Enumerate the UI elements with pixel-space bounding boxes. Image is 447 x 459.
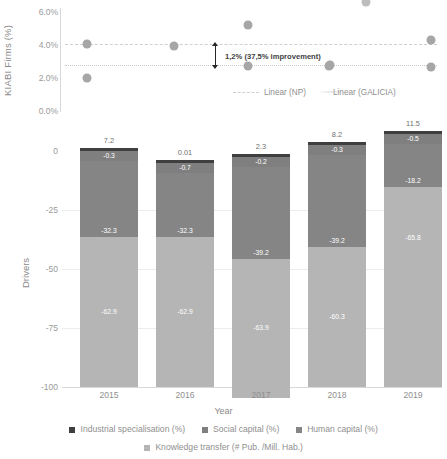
legend-swatch-social [202,427,208,433]
bar-top-label-2016: 0.01 [156,148,214,157]
chart-figure: KIABI Firms (%) 6.0% 4.0% 2.0% 0.0% [0,0,447,459]
legend-label-np: Linear (NP) [264,88,306,97]
bar-ytick-100: -100 [41,383,58,392]
scatter-point-np-2019 [427,36,436,45]
bar-segment-human-2017: -39.2 [232,167,290,259]
bar-segment-knowledge-2019: -65.8 [384,187,442,387]
bar-2018[interactable]: -0.3 -39.2 -60.3 [308,142,366,387]
bar-label-knowledge-2015: -62.9 [101,309,117,316]
legend-item-social[interactable]: Social capital (%) [202,424,280,434]
bar-ytick-0: 0 [53,147,58,156]
scatter-point-np-2015 [83,40,92,49]
scatter-point-np-2017 [244,21,253,30]
bar-segment-knowledge-2016: -62.9 [156,237,214,387]
bar-label-human-2019: -18.2 [405,178,421,185]
bar-2017[interactable]: -0.2 -39.2 -63.9 [232,154,290,398]
bar-2015[interactable]: -0.3 -32.3 -62.9 [80,148,138,387]
bar-top-label-2017: 2.3 [232,142,290,151]
scatter-point-clipped-top [362,0,371,7]
bar-2019[interactable]: -0.5 -18.2 -65.8 [384,131,442,387]
scatter-ytick-0: 0.0% [39,107,58,116]
bar-segment-knowledge-2015: -62.9 [80,237,138,387]
bar-x-axis-title: Year [0,406,447,416]
bar-label-human-2018: -39.2 [329,238,345,245]
bar-panel: Drivers 0 -25 -50 -75 -100 7.2 -0.3 -32.… [0,118,447,408]
bar-label-knowledge-2016: -62.9 [177,309,193,316]
scatter-ytick-2: 2.0% [39,74,58,83]
scatter-point-galicia-2017 [244,62,253,71]
bar-ytick-25: -25 [46,206,58,215]
scatter-y-axis-title: KIABI Firms (%) [2,18,16,102]
bar-label-social-2019: -0.5 [407,136,419,143]
bar-label-human-2015: -32.3 [101,228,117,235]
bar-segment-social-2017: -0.2 [232,157,290,167]
bar-x-axis-labels: 2015 2016 2017 2018 2019 [62,390,442,404]
scatter-point-galicia-2015 [83,74,92,83]
legend-label-galicia: Linear (GALICIA) [333,88,396,97]
bar-label-knowledge-2019: -65.8 [405,235,421,242]
bar-label-social-2018: -0.3 [331,147,343,154]
scatter-point-galicia-2018 [326,61,335,70]
scatter-point-np-2016 [170,42,179,51]
scatter-ytick-6: 6.0% [39,8,58,17]
bar-legend-row-2: Knowledge transfer (# Pub. /Mill. Hab.) [0,442,447,452]
legend-item-human[interactable]: Human capital (%) [296,424,378,434]
bar-label-social-2016: -0.7 [179,165,191,172]
bar-y-axis-ticks: 0 -25 -50 -75 -100 [10,118,62,386]
scatter-plot-area: 1,2% (37,5% improvement) Linear (NP) Lin… [61,8,441,112]
scatter-ytick-4: 4.0% [39,41,58,50]
legend-label-industrial: Industrial specialisation (%) [81,424,186,434]
scatter-legend-np[interactable]: Linear (NP) [233,88,306,97]
xlabel-2019: 2019 [384,390,442,400]
bar-segment-social-2018: -0.3 [308,145,366,155]
improvement-arrow [215,46,216,65]
improvement-annotation: 1,2% (37,5% improvement) [225,52,321,61]
bar-segment-human-2016: -32.3 [156,173,214,237]
bar-label-knowledge-2017: -63.9 [253,325,269,332]
scatter-y-axis-ticks: 6.0% 4.0% 2.0% 0.0% [18,8,60,112]
legend-swatch-industrial [69,427,75,433]
bar-segment-social-2019: -0.5 [384,134,442,144]
legend-swatch-knowledge [144,445,150,451]
bar-segment-human-2015: -32.3 [80,161,138,237]
bar-ytick-75: -75 [46,324,58,333]
xlabel-2015: 2015 [80,390,138,400]
legend-line-galicia [320,92,346,93]
bar-top-label-2015: 7.2 [80,136,138,145]
bar-segment-social-2015: -0.3 [80,151,138,161]
bar-label-social-2015: -0.3 [103,153,115,160]
bar-label-human-2016: -32.3 [177,228,193,235]
scatter-panel: KIABI Firms (%) 6.0% 4.0% 2.0% 0.0% [0,0,447,118]
bar-plot-area: 7.2 -0.3 -32.3 -62.9 0.01 -0.7 [62,118,442,386]
bar-legend-row-1: Industrial specialisation (%) Social cap… [0,424,447,434]
legend-label-human: Human capital (%) [307,424,378,434]
bar-segment-human-2018: -39.2 [308,155,366,247]
xlabel-2016: 2016 [156,390,214,400]
bar-label-social-2017: -0.2 [255,159,267,166]
legend-swatch-human [296,427,302,433]
bar-top-label-2019: 11.5 [384,119,442,128]
bar-label-human-2017: -39.2 [253,250,269,257]
bar-2016[interactable]: -0.7 -32.3 -62.9 [156,160,214,387]
legend-label-knowledge: Knowledge transfer (# Pub. /Mill. Hab.) [155,442,303,452]
legend-label-social: Social capital (%) [213,424,279,434]
bar-segment-knowledge-2018: -60.3 [308,247,366,387]
bar-segment-human-2019: -18.2 [384,144,442,187]
legend-item-industrial[interactable]: Industrial specialisation (%) [69,424,185,434]
legend-item-knowledge[interactable]: Knowledge transfer (# Pub. /Mill. Hab.) [144,442,303,452]
trendline-np [65,44,437,45]
bar-segment-knowledge-2017: -63.9 [232,259,290,398]
xlabel-2017: 2017 [232,390,290,400]
legend-line-np [233,92,259,93]
bar-ytick-50: -50 [46,265,58,274]
bar-label-knowledge-2018: -60.3 [329,314,345,321]
scatter-point-galicia-2019 [427,63,436,72]
xlabel-2018: 2018 [308,390,366,400]
bar-top-label-2018: 8.2 [308,130,366,139]
bar-segment-social-2016: -0.7 [156,163,214,173]
scatter-legend-galicia[interactable]: Linear (GALICIA) [333,88,396,97]
